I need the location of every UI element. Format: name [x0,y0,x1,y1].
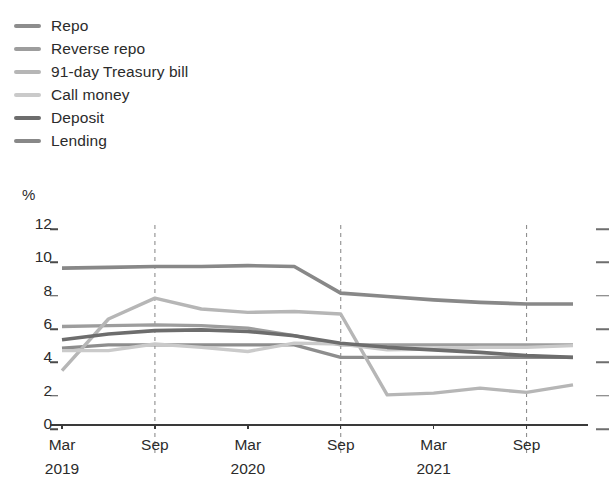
legend-label-repo: Repo [51,18,88,34]
x-tick-mark-1 [154,424,156,429]
legend-item-call_money: Call money [14,83,344,106]
x-tick-label-3: Sep [327,436,355,454]
legend-swatch-call_money [14,93,41,97]
legend-label-deposit: Deposit [51,110,104,126]
x-tick-mark-3 [340,424,342,429]
x-tick-mark-2 [247,424,249,429]
chart-figure: RepoReverse repo91-day Treasury billCall… [0,0,609,483]
series-line-reverse-repo [62,325,573,345]
x-tick-label-0: Mar [49,436,76,454]
legend-label-lending: Lending [51,133,107,149]
legend-item-lending: Lending [14,129,344,152]
legend-swatch-repo [14,24,41,28]
x-tick-year-0: 2019 [45,460,79,478]
x-tick-label-5: Sep [513,436,541,454]
x-tick-label-4: Mar [420,436,447,454]
legend-swatch-lending [14,139,41,143]
legend-item-repo: Repo [14,14,344,37]
x-tick-mark-4 [433,424,435,429]
plot-area: % 024681012 Mar2019SepMar2020SepMar2021S… [0,180,609,483]
legend-swatch-reverse_repo [14,47,41,51]
series-line-lending [62,266,573,304]
x-tick-year-2: 2020 [231,460,265,478]
legend-label-call_money: Call money [51,87,130,103]
legend-swatch-deposit [14,116,41,120]
legend-swatch-tbill_91 [14,70,41,74]
legend-label-reverse_repo: Reverse repo [51,41,145,57]
legend-item-deposit: Deposit [14,106,344,129]
chart-legend: RepoReverse repo91-day Treasury billCall… [14,14,344,152]
legend-item-tbill_91: 91-day Treasury bill [14,60,344,83]
x-tick-label-1: Sep [141,436,169,454]
legend-item-reverse_repo: Reverse repo [14,37,344,60]
x-tick-mark-5 [526,424,528,429]
x-tick-label-2: Mar [234,436,261,454]
legend-label-tbill_91: 91-day Treasury bill [51,64,188,80]
x-tick-mark-0 [61,424,63,429]
x-tick-year-4: 2021 [416,460,450,478]
x-axis-baseline [50,424,588,426]
